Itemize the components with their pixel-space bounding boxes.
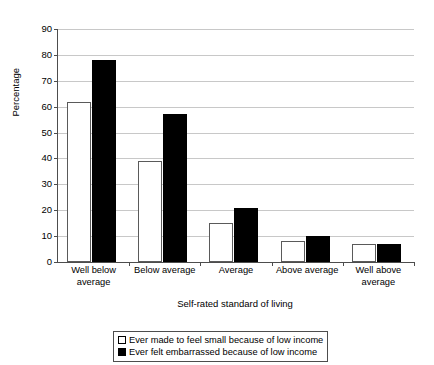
x-axis-tick-label: Above average	[269, 265, 345, 277]
y-axis-tick-label: 60	[41, 102, 52, 112]
bar	[209, 223, 233, 262]
y-axis-tick	[54, 262, 58, 263]
y-axis-title: Percentage	[10, 103, 21, 117]
y-axis-tick-label: 40	[41, 154, 52, 164]
bar-group	[200, 29, 271, 262]
y-axis-tick-label: 50	[41, 128, 52, 138]
bar-group	[58, 29, 129, 262]
bar	[352, 244, 376, 262]
bar	[377, 244, 401, 262]
legend-item: Ever felt embarrassed because of low inc…	[118, 346, 323, 358]
bar	[234, 208, 258, 262]
y-axis-tick-label: 30	[41, 180, 52, 190]
y-axis-tick-label: 70	[41, 76, 52, 86]
y-axis-tick-label: 0	[47, 257, 52, 267]
x-axis-title: Self-rated standard of living	[57, 298, 413, 309]
legend-item-label: Ever felt embarrassed because of low inc…	[129, 347, 317, 358]
chart-legend: Ever made to feel small because of low i…	[113, 331, 328, 362]
bar	[92, 60, 116, 262]
x-axis-tick-label: Average	[198, 265, 274, 277]
legend-swatch-black-icon	[118, 348, 126, 356]
bar	[67, 102, 91, 263]
x-axis-tick-label: Well above average	[340, 265, 416, 288]
y-axis-tick-label: 90	[41, 24, 52, 34]
bar	[163, 114, 187, 262]
legend-swatch-white-icon	[118, 336, 126, 344]
y-axis-tick-label: 80	[41, 50, 52, 60]
bar-group	[343, 29, 414, 262]
chart-figure: Percentage 0102030405060708090Well below…	[0, 0, 434, 365]
x-axis-tick-label: Well below average	[56, 265, 132, 288]
bar-group	[129, 29, 200, 262]
legend-item: Ever made to feel small because of low i…	[118, 334, 323, 346]
bar	[281, 241, 305, 262]
legend-item-label: Ever made to feel small because of low i…	[129, 335, 323, 346]
y-axis-tick-label: 10	[41, 231, 52, 241]
bar	[306, 236, 330, 262]
bar	[138, 161, 162, 262]
bar-group	[272, 29, 343, 262]
plot-area: 0102030405060708090Well below averageBel…	[57, 29, 414, 263]
x-axis-tick-label: Below average	[127, 265, 203, 277]
y-axis-tick-label: 20	[41, 205, 52, 215]
